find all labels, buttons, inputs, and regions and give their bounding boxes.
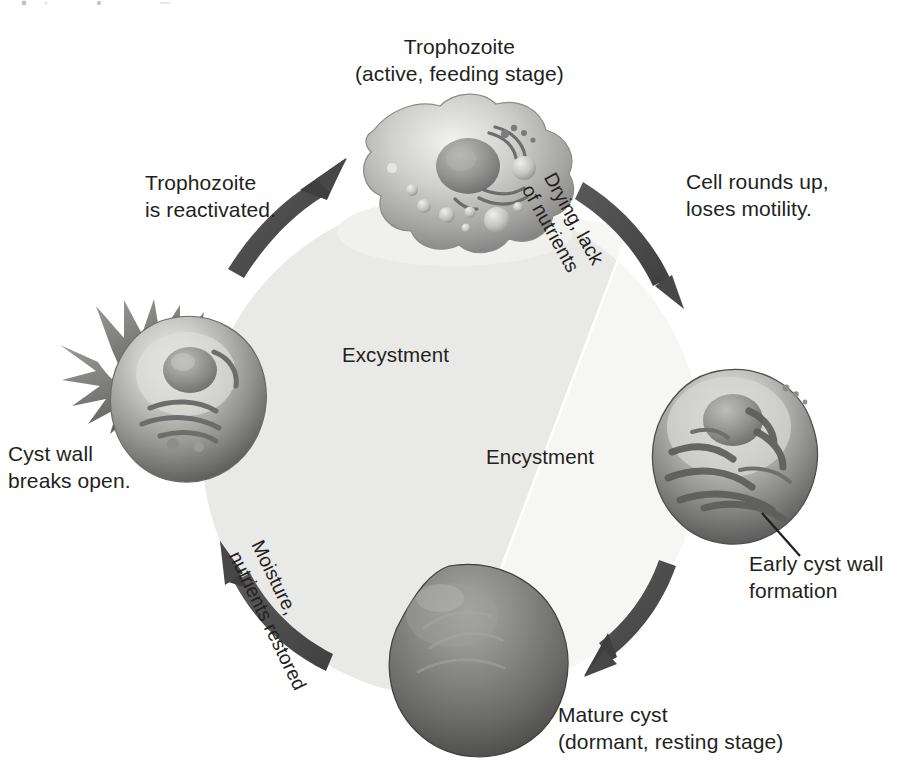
diagram-graphics bbox=[0, 0, 905, 783]
label-cell-rounds-up: Cell rounds up, loses motility. bbox=[686, 168, 829, 222]
label-cyst-wall-breaks-open: Cyst wall breaks open. bbox=[8, 440, 131, 494]
life-cycle-diagram: Trophozoite (active, feeding stage) Trop… bbox=[0, 0, 905, 783]
label-excystment: Excystment bbox=[342, 341, 449, 368]
label-trophozoite-reactivated: Trophozoite is reactivated. bbox=[145, 169, 276, 223]
label-early-cyst-wall-formation: Early cyst wall formation bbox=[749, 550, 884, 604]
label-encystment: Encystment bbox=[486, 443, 594, 470]
scan-artifacts bbox=[0, 0, 905, 14]
label-mature-cyst: Mature cyst (dormant, resting stage) bbox=[558, 701, 783, 755]
label-trophozoite: Trophozoite (active, feeding stage) bbox=[355, 33, 564, 87]
